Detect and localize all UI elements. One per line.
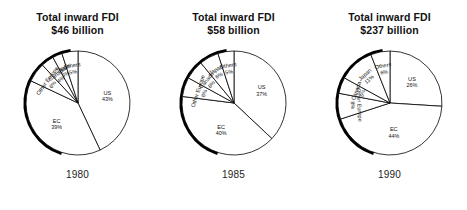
panel-title-1990: Total inward FDI$237 billion xyxy=(348,11,431,36)
pie-svg-1985: US37%EC40%Other Europe6%Canada6%Japan6%O… xyxy=(175,44,293,162)
pie-chart-1985: US37%EC40%Other Europe6%Canada6%Japan6%O… xyxy=(175,44,293,162)
pie-chart-1990: US26%EC44%Other Europe8%Canada5%Japan11%… xyxy=(331,44,449,162)
pie-chart-1980: US43%EC39%Other Europe6%Canada4%Japan3%O… xyxy=(19,44,137,162)
panel-title-line1: Total inward FDI xyxy=(192,11,275,23)
slice-label-value: 8% xyxy=(349,101,355,109)
slice-label-value: 5% xyxy=(68,68,77,75)
panel-total-label: $58 billion xyxy=(207,24,259,36)
pie-panel-1980: Total inward FDI$46 billion US43%EC39%Ot… xyxy=(0,0,155,210)
panel-year-1985: 1985 xyxy=(222,169,245,180)
slice-label-name: EC xyxy=(389,126,397,132)
pie-svg-1980: US43%EC39%Other Europe6%Canada4%Japan3%O… xyxy=(19,44,137,162)
pie-panel-1990: Total inward FDI$237 billion US26%EC44%O… xyxy=(312,0,467,210)
slice-label-name: US xyxy=(408,76,416,82)
slice-label-value: 43% xyxy=(102,96,113,102)
panel-total-label: $237 billion xyxy=(360,24,418,36)
slice-label-name: EC xyxy=(217,124,225,130)
slice-label-value: 40% xyxy=(215,130,226,136)
fdi-pie-chart-figure: Total inward FDI$46 billion US43%EC39%Ot… xyxy=(0,0,467,210)
pie-slice-us xyxy=(390,51,442,106)
slice-label-name: US xyxy=(103,90,111,96)
slice-label-value: 39% xyxy=(51,124,62,130)
slice-label-name: US xyxy=(257,84,265,90)
panel-title-1980: Total inward FDI$46 billion xyxy=(36,11,119,36)
pie-svg-1990: US26%EC44%Other Europe8%Canada5%Japan11%… xyxy=(331,44,449,162)
panel-total-label: $46 billion xyxy=(51,24,103,36)
panel-title-1985: Total inward FDI$58 billion xyxy=(192,11,275,36)
slice-label-name: EC xyxy=(52,118,60,124)
slice-label-value: 26% xyxy=(406,82,417,88)
pie-panel-1985: Total inward FDI$58 billion US37%EC40%Ot… xyxy=(156,0,311,210)
panel-title-line1: Total inward FDI xyxy=(36,11,119,23)
slice-label-value: 44% xyxy=(388,133,399,139)
panel-year-1990: 1990 xyxy=(378,169,401,180)
panel-year-1980: 1980 xyxy=(66,169,89,180)
panel-title-line1: Total inward FDI xyxy=(348,11,431,23)
slice-label-value: 37% xyxy=(256,91,267,97)
slice-label-value: 5% xyxy=(224,68,233,75)
